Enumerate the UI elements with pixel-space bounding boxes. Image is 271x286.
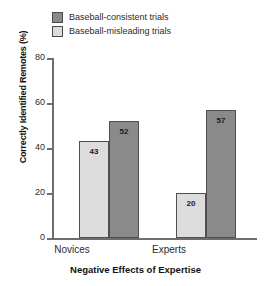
bar-group-experts: 20 57 [176,58,236,238]
x-axis-title: Negative Effects of Expertise [0,264,271,275]
x-category-label-novices: Novices [32,244,112,255]
bar-value-label-novices-consistent: 52 [110,127,138,136]
bar-novices-consistent[interactable]: 52 [109,121,139,238]
y-tick-label-60: 60 [22,97,45,107]
x-category-label-experts: Experts [129,244,209,255]
bar-value-label-experts-consistent: 57 [207,116,235,125]
bar-experts-consistent[interactable]: 57 [206,110,236,238]
legend-item-baseball-consistent: Baseball-consistent trials [52,12,171,23]
legend-label-consistent: Baseball-consistent trials [69,12,169,23]
legend-swatch-icon-consistent [52,12,63,23]
legend-item-baseball-misleading: Baseball-misleading trials [52,26,171,37]
bar-value-label-experts-misleading: 20 [177,199,205,208]
plot-area: 80 60 40 20 0 43 52 20 [52,58,257,238]
bar-value-label-novices-misleading: 43 [80,147,108,156]
y-tick-label-20: 20 [22,187,45,197]
bar-experts-misleading[interactable]: 20 [176,193,206,238]
legend-swatch-icon-misleading [52,26,63,37]
y-tick-label-80: 80 [22,52,45,62]
bar-chart-figure: Baseball-consistent trials Baseball-misl… [0,0,271,286]
bar-novices-misleading[interactable]: 43 [79,141,109,238]
chart-legend: Baseball-consistent trials Baseball-misl… [52,12,171,37]
y-tick-label-40: 40 [22,142,45,152]
y-tick-0 [47,238,52,240]
bar-group-novices: 43 52 [79,58,139,238]
x-axis-line [52,238,257,240]
y-tick-label-0: 0 [22,232,45,242]
bar-container: 43 52 20 57 [52,58,257,238]
legend-label-misleading: Baseball-misleading trials [69,26,171,37]
